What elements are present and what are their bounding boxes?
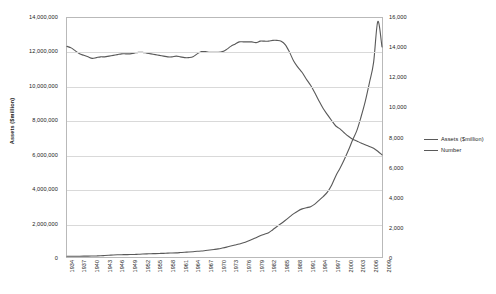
legend-label-number: Number bbox=[441, 147, 462, 153]
series-lines bbox=[67, 18, 382, 257]
x-axis-tick: 1967 bbox=[208, 260, 214, 272]
legend-line-icon bbox=[424, 139, 438, 140]
x-axis-tick: 1949 bbox=[132, 260, 138, 272]
x-axis-tick: 1994 bbox=[322, 260, 328, 272]
y-axis-right-tick: 10,000 bbox=[389, 104, 407, 110]
x-axis-tick: 2003 bbox=[360, 260, 366, 272]
x-axis-tick: 1937 bbox=[81, 260, 87, 272]
y-axis-right-tick: 14,000 bbox=[389, 44, 407, 50]
y-axis-left-tick: 14,000,000 bbox=[29, 14, 58, 20]
y-axis-left-tick: 4,000,000 bbox=[32, 186, 58, 192]
x-axis-tick: 1958 bbox=[170, 260, 176, 272]
chart-legend: Assets ($million) Number bbox=[424, 136, 496, 158]
y-axis-left-tick: 2,000,000 bbox=[32, 221, 58, 227]
y-axis-right-tick: 6,000 bbox=[389, 165, 404, 171]
x-axis-tick: 2006 bbox=[373, 260, 379, 272]
gridline bbox=[67, 190, 382, 191]
y-axis-left-tick: 12,000,000 bbox=[29, 48, 58, 54]
x-axis-tick: 1988 bbox=[297, 260, 303, 272]
series-line-number bbox=[67, 40, 382, 155]
x-axis-tick: 1979 bbox=[259, 260, 265, 272]
gridline bbox=[67, 121, 382, 122]
x-axis-tick: 1982 bbox=[271, 260, 277, 272]
x-axis-tick: 1961 bbox=[183, 260, 189, 272]
x-axis-tick: 1997 bbox=[335, 260, 341, 272]
x-axis-tick: 1976 bbox=[246, 260, 252, 272]
x-axis-tick: 2009 bbox=[386, 260, 392, 272]
y-axis-right-tick: 12,000 bbox=[389, 74, 407, 80]
x-axis-tick: 1985 bbox=[284, 260, 290, 272]
x-axis-tick: 1934 bbox=[69, 260, 75, 272]
y-axis-left-tick: 6,000,000 bbox=[32, 152, 58, 158]
gridline bbox=[67, 156, 382, 157]
y-axis-right-tick: 2,000 bbox=[389, 225, 404, 231]
legend-item-assets: Assets ($million) bbox=[424, 136, 496, 142]
chart-container: Assets ($million) 02,000,0004,000,0006,0… bbox=[0, 0, 496, 294]
x-axis-tick: 1943 bbox=[107, 260, 113, 272]
x-axis-tick: 1955 bbox=[157, 260, 163, 272]
y-axis-left-tick: 0 bbox=[55, 255, 58, 261]
gridline bbox=[67, 87, 382, 88]
gridline bbox=[67, 52, 382, 53]
legend-label-assets: Assets ($million) bbox=[441, 136, 484, 142]
x-axis-labels: 1934193719401943194619491952195519581961… bbox=[66, 260, 383, 294]
x-axis-tick: 1991 bbox=[310, 260, 316, 272]
x-axis-tick: 1946 bbox=[119, 260, 125, 272]
legend-line-icon bbox=[424, 150, 438, 151]
y-axis-right-tick: 8,000 bbox=[389, 135, 404, 141]
y-axis-right-tick: 16,000 bbox=[389, 14, 407, 20]
y-axis-left-tick: 10,000,000 bbox=[29, 83, 58, 89]
x-axis-tick: 1952 bbox=[145, 260, 151, 272]
x-axis-tick: 1973 bbox=[233, 260, 239, 272]
series-line-assets bbox=[67, 21, 382, 256]
y-axis-left-labels: 02,000,0004,000,0006,000,0008,000,00010,… bbox=[0, 17, 62, 258]
plot-area bbox=[66, 17, 383, 258]
legend-item-number: Number bbox=[424, 147, 496, 153]
x-axis-tick: 1970 bbox=[221, 260, 227, 272]
x-axis-tick: 2000 bbox=[348, 260, 354, 272]
x-axis-tick: 1964 bbox=[195, 260, 201, 272]
y-axis-right-tick: 4,000 bbox=[389, 195, 404, 201]
gridline bbox=[67, 225, 382, 226]
x-axis-tick: 1940 bbox=[94, 260, 100, 272]
y-axis-left-tick: 8,000,000 bbox=[32, 117, 58, 123]
